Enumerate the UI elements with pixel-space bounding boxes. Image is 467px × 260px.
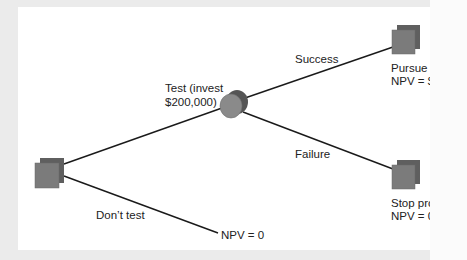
stop-label-line1: Stop proj	[391, 197, 430, 210]
pursue-npv-label: NPV = $:	[391, 75, 430, 88]
right-margin	[430, 0, 467, 260]
dont-test-label: Don’t test	[96, 209, 145, 222]
decision-tree-svg	[0, 0, 430, 260]
edge-dont-test	[64, 176, 218, 233]
pursue-decision-node-icon	[392, 25, 420, 54]
root-decision-node-icon	[35, 158, 64, 188]
stop-npv-label: NPV = 0	[391, 210, 430, 223]
failure-label: Failure	[295, 148, 330, 161]
success-label: Success	[295, 53, 338, 66]
pursue-label-line1: Pursue pr	[391, 62, 430, 75]
chance-node-icon	[220, 90, 248, 118]
edge-test	[64, 108, 222, 164]
stop-decision-node-icon	[392, 160, 420, 189]
test-label-line1: Test (invest	[165, 82, 223, 95]
diagram-canvas: Test (invest $200,000) Success Failure D…	[0, 0, 430, 260]
test-label-line2: $200,000)	[165, 96, 217, 109]
no-test-npv-label: NPV = 0	[221, 229, 264, 242]
